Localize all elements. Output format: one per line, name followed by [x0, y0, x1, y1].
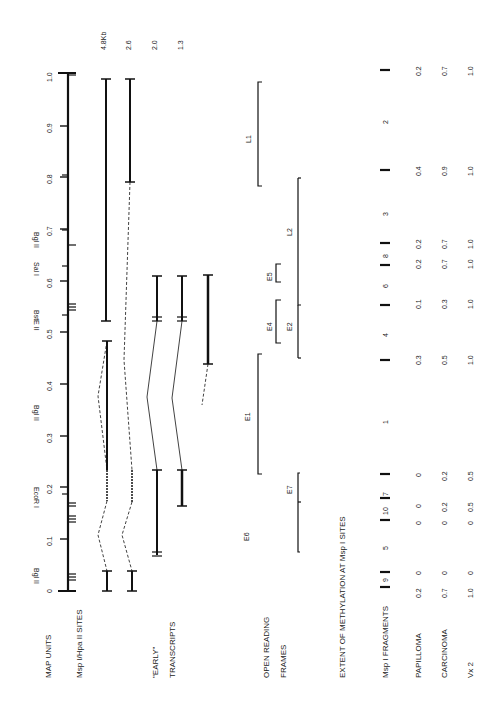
svg-text:1.0: 1.0 — [467, 299, 474, 309]
svg-text:EcoR I: EcoR I — [33, 487, 40, 508]
svg-text:Msp I/Hpa II SITES: Msp I/Hpa II SITES — [75, 610, 84, 678]
map-tick-labels: 0 0.1 0.2 0.3 0.4 0.5 0.6 0.7 0.8 0.9 1.… — [46, 72, 53, 593]
map-axis — [58, 73, 76, 592]
svg-text:0: 0 — [415, 504, 422, 508]
svg-text:0: 0 — [441, 521, 448, 525]
svg-text:0: 0 — [467, 571, 474, 575]
svg-text:0.5: 0.5 — [46, 329, 53, 339]
svg-text:L1: L1 — [245, 135, 252, 143]
svg-text:6: 6 — [382, 284, 389, 288]
svg-text:7: 7 — [382, 492, 389, 496]
transcript-size-labels: 4.8Kb 2.6 2.0 1.3 — [100, 32, 184, 50]
svg-text:0: 0 — [467, 521, 474, 525]
svg-text:0.2: 0.2 — [415, 239, 422, 249]
svg-text:0.8: 0.8 — [46, 174, 53, 184]
svg-text:EXTENT OF METHYLATION AT Msp I: EXTENT OF METHYLATION AT Msp I SITES — [338, 516, 347, 678]
svg-text:1.0: 1.0 — [467, 259, 474, 269]
svg-text:FRAMES: FRAMES — [279, 645, 288, 678]
svg-text:1.3: 1.3 — [177, 40, 184, 50]
svg-text:0: 0 — [46, 589, 53, 593]
svg-text:E7: E7 — [286, 485, 293, 494]
svg-text:2.0: 2.0 — [151, 40, 158, 50]
svg-text:1.0: 1.0 — [467, 355, 474, 365]
svg-text:2.6: 2.6 — [125, 40, 132, 50]
svg-text:8: 8 — [382, 254, 389, 258]
svg-text:0.5: 0.5 — [441, 355, 448, 365]
svg-text:0.9: 0.9 — [46, 123, 53, 133]
svg-text:0.9: 0.9 — [441, 166, 448, 176]
svg-text:L2: L2 — [286, 228, 293, 236]
svg-text:PAPILLOMA: PAPILLOMA — [414, 633, 423, 678]
svg-text:Sal I: Sal I — [33, 262, 40, 276]
transcripts — [98, 79, 213, 591]
svg-text:0.2: 0.2 — [415, 66, 422, 76]
svg-text:0.3: 0.3 — [441, 299, 448, 309]
svg-text:4: 4 — [382, 333, 389, 337]
svg-text:0.3: 0.3 — [415, 355, 422, 365]
svg-text:OPEN READING: OPEN READING — [262, 617, 271, 678]
svg-text:1.0: 1.0 — [467, 588, 474, 598]
svg-text:E2: E2 — [286, 322, 293, 331]
restriction-site-labels: Bgl II EcoR I Bgl II BstE II Sal I Bgl I… — [32, 232, 40, 584]
open-reading-frames — [258, 82, 301, 552]
svg-text:0.3: 0.3 — [46, 433, 53, 443]
svg-text:0.1: 0.1 — [415, 299, 422, 309]
svg-text:5: 5 — [382, 546, 389, 550]
svg-text:E4: E4 — [266, 322, 273, 331]
svg-text:E1: E1 — [244, 412, 251, 421]
svg-text:MAP UNITS: MAP UNITS — [44, 635, 53, 678]
svg-text:TRANSCRIPTS: TRANSCRIPTS — [168, 622, 177, 678]
svg-text:3: 3 — [382, 212, 389, 216]
svg-text:0.4: 0.4 — [415, 166, 422, 176]
svg-text:0.2: 0.2 — [46, 484, 53, 494]
row-labels: MAP UNITS Msp I/Hpa II SITES "EARLY" TRA… — [44, 516, 475, 678]
svg-text:0: 0 — [415, 521, 422, 525]
svg-text:CARCINOMA: CARCINOMA — [440, 628, 449, 678]
svg-text:0.7: 0.7 — [441, 588, 448, 598]
svg-text:1: 1 — [382, 420, 389, 424]
svg-text:0.2: 0.2 — [415, 259, 422, 269]
svg-text:0.2: 0.2 — [441, 502, 448, 512]
fragment-labels: 9 5 10 7 1 4 6 8 3 2 — [382, 120, 389, 582]
svg-text:0.7: 0.7 — [441, 259, 448, 269]
svg-text:0: 0 — [415, 473, 422, 477]
svg-text:4.8Kb: 4.8Kb — [100, 32, 107, 50]
svg-text:0.2: 0.2 — [441, 471, 448, 481]
orf-labels: E6 E7 E1 E4 E2 E5 L2 L1 — [243, 135, 293, 541]
svg-text:0: 0 — [415, 571, 422, 575]
svg-text:0.7: 0.7 — [441, 239, 448, 249]
svg-text:Vx 2: Vx 2 — [466, 661, 475, 678]
svg-text:0.7: 0.7 — [441, 66, 448, 76]
svg-text:1.0: 1.0 — [467, 239, 474, 249]
svg-text:0: 0 — [441, 571, 448, 575]
svg-text:0.4: 0.4 — [46, 381, 53, 391]
methylation-papilloma: 0.2 0 0 0 0 0.3 0.1 0.2 0.2 0.4 0.2 — [415, 66, 422, 598]
methylation-carcinoma: 0.7 0 0 0.2 0.2 0.5 0.3 0.7 0.7 0.9 0.7 — [441, 66, 448, 598]
svg-text:0.6: 0.6 — [46, 278, 53, 288]
svg-text:0.2: 0.2 — [415, 588, 422, 598]
svg-text:Bgl II: Bgl II — [32, 568, 40, 584]
svg-text:9: 9 — [382, 578, 389, 582]
svg-text:0.7: 0.7 — [46, 226, 53, 236]
svg-text:2: 2 — [382, 120, 389, 124]
svg-text:0.5: 0.5 — [467, 502, 474, 512]
svg-text:BstE II: BstE II — [33, 310, 40, 331]
svg-text:Bgl II: Bgl II — [32, 232, 40, 248]
svg-text:1.0: 1.0 — [467, 66, 474, 76]
svg-text:1.0: 1.0 — [46, 72, 53, 82]
svg-text:E5: E5 — [266, 272, 273, 281]
svg-text:Bgl II: Bgl II — [32, 405, 40, 421]
methylation-vx2: 1.0 0 0 0.5 0.5 1.0 1.0 1.0 1.0 1.0 1.0 — [467, 66, 474, 598]
svg-text:0.1: 0.1 — [46, 536, 53, 546]
svg-text:E6: E6 — [243, 532, 250, 541]
svg-text:0.5: 0.5 — [467, 471, 474, 481]
svg-text:10: 10 — [382, 507, 389, 515]
svg-text:Msp I FRAGMENTS: Msp I FRAGMENTS — [381, 606, 390, 678]
genome-map-figure: 0 0.1 0.2 0.3 0.4 0.5 0.6 0.7 0.8 0.9 1.… — [0, 0, 497, 715]
svg-text:"EARLY": "EARLY" — [151, 647, 160, 678]
svg-text:1.0: 1.0 — [467, 166, 474, 176]
